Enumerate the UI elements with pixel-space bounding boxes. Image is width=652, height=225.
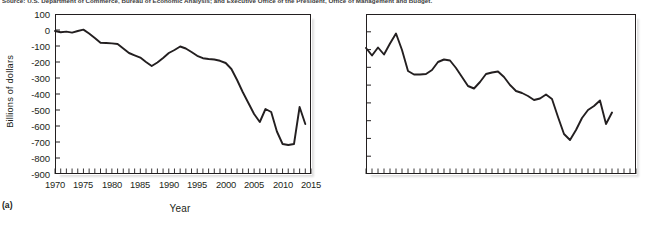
y-tick-label: -700 bbox=[8, 138, 50, 148]
panel-tag-a: (a) bbox=[2, 200, 13, 210]
y-tick-label: -300 bbox=[8, 74, 50, 84]
y-tick-label: -900 bbox=[8, 170, 50, 180]
plot-area-a bbox=[55, 14, 311, 174]
x-tick-label: 1995 bbox=[181, 180, 213, 189]
y-tick-label: -800 bbox=[8, 154, 50, 164]
x-axis-label-a: Year bbox=[120, 203, 240, 214]
y-tick-label: -500 bbox=[8, 106, 50, 116]
x-tick-label: 1975 bbox=[67, 180, 99, 189]
x-tick-label: 2005 bbox=[238, 180, 270, 189]
y-tick-label: -600 bbox=[8, 122, 50, 132]
y-tick-label: -100 bbox=[8, 42, 50, 52]
deficit-percent-gdp-line bbox=[366, 14, 636, 174]
y-tick-label: 100 bbox=[8, 10, 50, 20]
chart-panel-b: Percent of GDP 2 1 0 -1 -2 -3 -4 -5 -6 -… bbox=[326, 0, 652, 225]
deficit-dollars-line bbox=[55, 14, 311, 174]
x-tick-label: 2015 bbox=[295, 180, 327, 189]
x-tick-label: 1985 bbox=[124, 180, 156, 189]
y-tick-label: -200 bbox=[8, 58, 50, 68]
plot-area-b bbox=[366, 14, 636, 174]
chart-panel-a: Billions of dollars 100 0 -100 -200 -300… bbox=[0, 0, 326, 225]
y-tick-label: -400 bbox=[8, 90, 50, 100]
y-tick-label: 0 bbox=[8, 26, 50, 36]
